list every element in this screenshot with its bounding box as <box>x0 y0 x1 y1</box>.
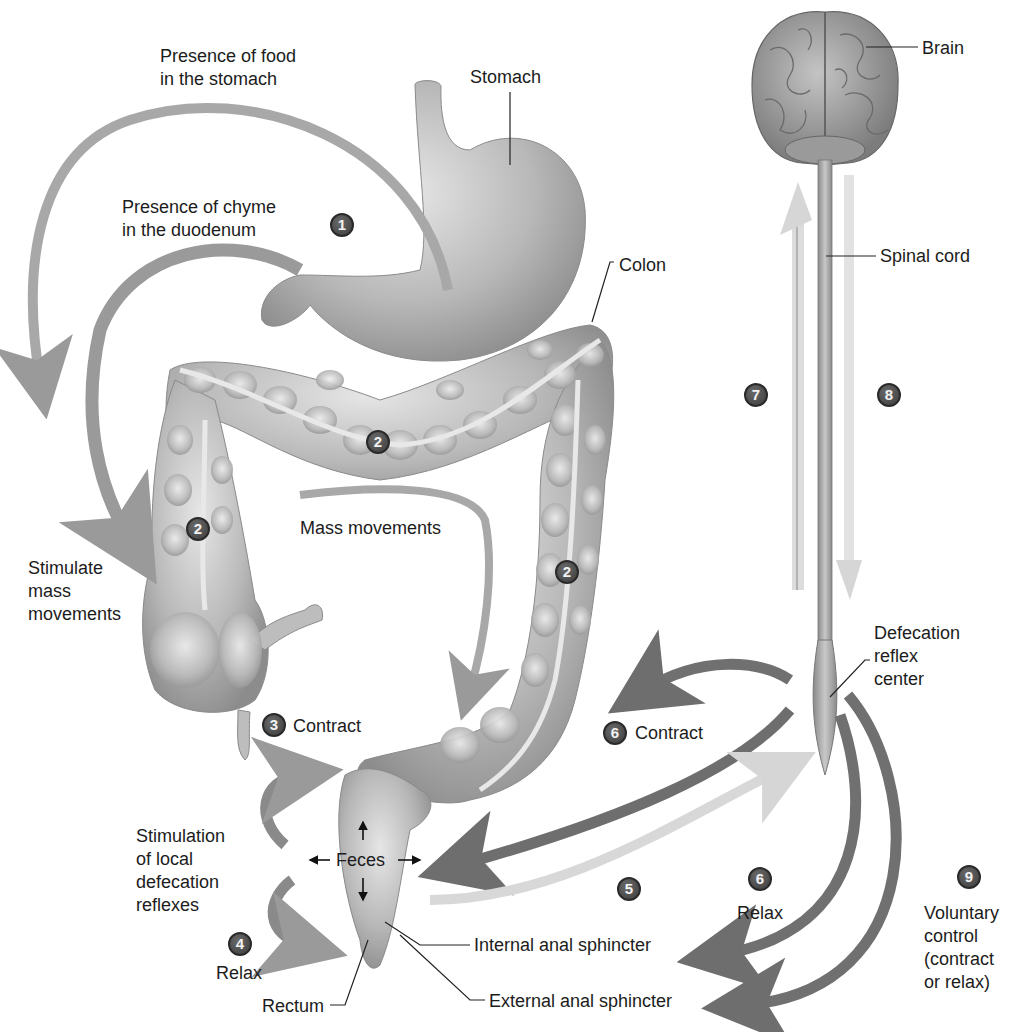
step-badge-6-relax: 6 <box>748 867 772 891</box>
arrow-local-reflex-down <box>273 880 305 945</box>
label-feces: Feces <box>336 849 385 872</box>
label-relax-6: Relax <box>737 902 783 925</box>
label-brain: Brain <box>922 37 964 60</box>
label-defecation-reflex-center: Defecation reflex center <box>874 622 960 691</box>
arrow-local-reflex-up <box>266 775 300 845</box>
step-badge-7: 7 <box>744 383 768 407</box>
step-badge-8: 8 <box>877 383 901 407</box>
label-rectum: Rectum <box>262 995 324 1018</box>
defecation-reflex-diagram: Presence of food in the stomach Stomach … <box>0 0 1023 1032</box>
step-badge-6-contract: 6 <box>603 721 627 745</box>
label-colon: Colon <box>619 254 666 277</box>
label-stimulation-local-reflexes: Stimulation of local defecation reflexes <box>136 825 225 917</box>
arrow-contract-colon <box>645 664 790 690</box>
step-badge-1: 1 <box>330 213 354 237</box>
label-mass-movements: Mass movements <box>300 517 441 540</box>
label-contract-3: Contract <box>293 715 361 738</box>
step-badge-5: 5 <box>617 877 641 901</box>
spinal-cord <box>813 160 837 775</box>
colon <box>143 325 614 805</box>
label-internal-anal-sphincter: Internal anal sphincter <box>474 934 651 957</box>
step-badge-2-transverse: 2 <box>366 430 390 454</box>
afferent-arrow-7 <box>780 182 812 590</box>
step-badge-4: 4 <box>228 932 252 956</box>
label-stimulate-mass-movements: Stimulate mass movements <box>28 557 121 626</box>
label-relax-4: Relax <box>216 962 262 985</box>
step-badge-2-ascending: 2 <box>186 517 210 541</box>
efferent-arrow-8 <box>836 175 862 600</box>
brain <box>752 12 898 165</box>
label-contract-6: Contract <box>635 722 703 745</box>
label-food-in-stomach: Presence of food in the stomach <box>160 45 296 91</box>
label-voluntary-control: Voluntary control (contract or relax) <box>924 902 999 994</box>
step-badge-2-descending: 2 <box>555 560 579 584</box>
label-chyme-in-duodenum: Presence of chyme in the duodenum <box>122 196 276 242</box>
label-stomach: Stomach <box>470 66 541 89</box>
label-external-anal-sphincter: External anal sphincter <box>489 990 672 1013</box>
label-spinal-cord: Spinal cord <box>880 245 970 268</box>
step-badge-9: 9 <box>957 865 981 889</box>
step-badge-3: 3 <box>262 713 286 737</box>
